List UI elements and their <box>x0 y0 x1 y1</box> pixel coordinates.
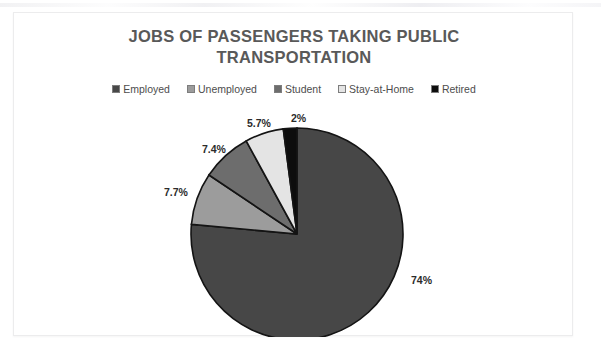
chart-legend: Employed Unemployed Student Stay-at-Home… <box>14 83 574 95</box>
legend-label-unemployed: Unemployed <box>198 83 257 95</box>
scan-artifact <box>0 3 601 7</box>
pie-label-student: 7.4% <box>202 143 226 155</box>
pie-label-employed: 74% <box>411 274 432 286</box>
legend-item-stay-at-home: Stay-at-Home <box>338 83 414 95</box>
chart-title-line-1: JOBS OF PASSENGERS TAKING PUBLIC <box>14 26 574 47</box>
pie-slice-group <box>191 128 403 337</box>
legend-swatch-icon-stay-at-home <box>338 85 346 93</box>
pie-chart-plot-area: 74% 7.7% 7.4% 5.7% 2% <box>14 101 574 337</box>
legend-label-retired: Retired <box>442 83 476 95</box>
legend-swatch-icon-student <box>274 85 282 93</box>
legend-swatch-icon-employed <box>112 85 120 93</box>
pie-label-retired: 2% <box>291 112 306 124</box>
legend-label-student: Student <box>285 83 321 95</box>
legend-swatch-icon-unemployed <box>187 85 195 93</box>
chart-container: JOBS OF PASSENGERS TAKING PUBLIC TRANSPO… <box>13 12 573 336</box>
pie-label-unemployed: 7.7% <box>164 186 188 198</box>
legend-label-stay-at-home: Stay-at-Home <box>349 83 414 95</box>
legend-label-employed: Employed <box>123 83 170 95</box>
legend-item-employed: Employed <box>112 83 170 95</box>
pie-chart-svg <box>14 101 574 337</box>
legend-item-retired: Retired <box>431 83 476 95</box>
legend-swatch-icon-retired <box>431 85 439 93</box>
legend-item-unemployed: Unemployed <box>187 83 257 95</box>
legend-item-student: Student <box>274 83 321 95</box>
pie-label-stay-at-home: 5.7% <box>247 117 271 129</box>
chart-title-line-2: TRANSPORTATION <box>14 47 574 68</box>
chart-title: JOBS OF PASSENGERS TAKING PUBLIC TRANSPO… <box>14 26 574 68</box>
